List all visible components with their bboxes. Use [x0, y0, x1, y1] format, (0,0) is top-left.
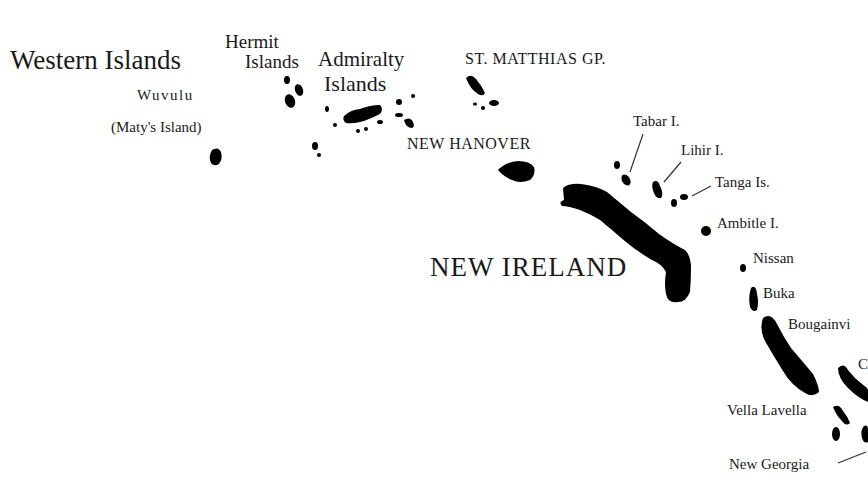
- label-hermit-line1: Hermit: [225, 32, 279, 51]
- island-buka: [749, 287, 758, 311]
- label-new-georgia: New Georgia: [729, 457, 809, 472]
- island-tanga-1: [671, 199, 677, 207]
- label-lihir: Lihir I.: [681, 143, 724, 158]
- island-lihir: [652, 181, 662, 198]
- island-tanga-2: [680, 194, 688, 200]
- island-hermit-3: [283, 93, 297, 110]
- label-buka: Buka: [763, 286, 795, 301]
- island-tabar-2: [620, 173, 633, 187]
- island-manus: [343, 105, 382, 123]
- label-admiralty-line1: Admiralty: [318, 49, 404, 70]
- island-new-georgia-1: [832, 427, 840, 441]
- island-ambitle: [701, 226, 711, 236]
- island-new-hanover: [498, 161, 535, 182]
- label-ambitle: Ambitle I.: [717, 216, 779, 231]
- label-bougainville: Bougainvi: [788, 317, 851, 332]
- island-mussau: [466, 76, 485, 96]
- label-tabar: Tabar I.: [633, 114, 679, 129]
- island-nissan: [740, 264, 746, 272]
- label-hermit-line2: Islands: [245, 52, 299, 71]
- label-vella-lavella: Vella Lavella: [727, 403, 807, 418]
- island-hermit-2: [293, 83, 305, 97]
- map: Western Islands Hermit Islands Admiralty…: [0, 0, 868, 503]
- island-vella-lavella: [833, 406, 850, 425]
- label-matys-island: (Maty's Island): [111, 120, 202, 135]
- label-western-islands: Western Islands: [10, 47, 181, 74]
- label-new-hanover: NEW HANOVER: [407, 136, 531, 152]
- island-wuvulu: [210, 148, 222, 165]
- label-choiseul-partial: C: [858, 357, 868, 372]
- label-wuvulu: Wuvulu: [137, 88, 194, 103]
- label-new-ireland: NEW IRELAND: [430, 254, 627, 281]
- island-hermit-1: [284, 76, 290, 84]
- island-tabar-1: [614, 161, 620, 169]
- island-new-georgia-2: [861, 426, 868, 443]
- label-st-matthias-group: ST. MATTHIAS GP.: [465, 51, 606, 67]
- label-admiralty-line2: Islands: [324, 73, 386, 95]
- label-nissan: Nissan: [753, 251, 794, 266]
- label-tanga: Tanga Is.: [715, 175, 770, 190]
